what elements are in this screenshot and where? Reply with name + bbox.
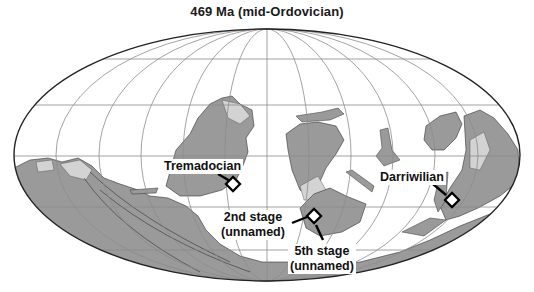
label-second-stage: 2nd stage (unnamed): [219, 210, 287, 240]
label-text: 2nd stage: [221, 210, 285, 225]
label-text: (unnamed): [221, 225, 285, 240]
label-text: Tremadocian: [164, 159, 241, 174]
label-text: (unnamed): [290, 259, 354, 274]
label-darriwilian: Darriwilian: [378, 170, 446, 185]
label-fifth-stage: 5th stage (unnamed): [288, 244, 356, 274]
label-text: 5th stage: [290, 244, 354, 259]
label-tremadocian: Tremadocian: [162, 159, 243, 174]
paleogeographic-map: [0, 0, 534, 292]
label-text: Darriwilian: [380, 170, 444, 185]
